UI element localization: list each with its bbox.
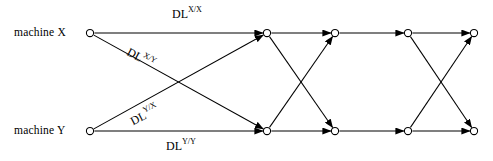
switch-node-n-t1: [263, 29, 270, 36]
edge-label-dl-yy: DLY/Y: [166, 138, 196, 154]
edge-label-superscript: Y/Y: [182, 137, 196, 146]
source-label-machine-y: machine Y: [14, 124, 66, 136]
switch-node-n-b4: [470, 127, 477, 134]
source-label-machine-x: machine X: [14, 26, 66, 38]
switch-node-n-b1: [263, 127, 270, 134]
switch-node-n-t2: [331, 29, 338, 36]
source-node-machine-y: [86, 127, 93, 134]
edge-label-dl-xx: DLX/X: [172, 6, 202, 22]
switch-node-n-b3: [404, 127, 411, 134]
switch-node-n-t3: [404, 29, 411, 36]
edge-label-base: DL: [166, 139, 182, 153]
source-node-machine-x: [86, 29, 93, 36]
network-graphics: [0, 0, 493, 161]
switch-node-n-b2: [331, 127, 338, 134]
network-diagram: machine X machine Y DLX/X DLX/Y DLY/X DL…: [0, 0, 493, 161]
edge-label-base: DL: [172, 7, 188, 21]
edge-label-superscript: X/X: [188, 5, 202, 14]
switch-node-n-t4: [470, 29, 477, 36]
